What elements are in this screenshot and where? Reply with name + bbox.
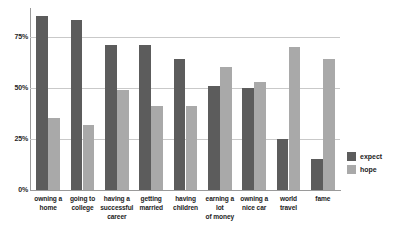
bar-expect — [277, 139, 289, 190]
bar-expect — [139, 45, 151, 190]
x-axis-label-line: having a — [100, 194, 134, 203]
x-axis-label-line: owning a — [237, 194, 271, 203]
x-axis-label-line: career — [100, 212, 134, 221]
x-axis-line — [30, 190, 341, 191]
x-axis-label-line: children — [168, 203, 202, 212]
y-axis-ticks: 0%25%50%75% — [0, 0, 28, 244]
x-axis-label: fame — [306, 194, 340, 203]
legend-label: hope — [360, 166, 377, 173]
x-axis-label-line: successful — [100, 203, 134, 212]
x-axis-label: going tocollege — [65, 194, 99, 212]
bar-group — [306, 0, 340, 190]
bar-group — [271, 0, 305, 190]
y-tick-label: 25% — [2, 135, 28, 142]
x-axis-label: having asuccessfulcareer — [100, 194, 134, 221]
bar-hope — [151, 106, 163, 190]
y-tick-label: 50% — [2, 84, 28, 91]
bar-hope — [323, 59, 335, 190]
x-axis-label-line: travel — [271, 203, 305, 212]
bar-group — [31, 0, 65, 190]
bar-groups — [31, 0, 340, 190]
bar-expect — [174, 59, 186, 190]
bar-group — [168, 0, 202, 190]
bar-hope — [254, 82, 266, 190]
x-axis-label-line: fame — [306, 194, 340, 203]
x-axis-label: owning anice car — [237, 194, 271, 212]
legend-item: expect — [347, 152, 395, 161]
x-axis-label-line: owning a — [31, 194, 65, 203]
x-axis-label-line: nice car — [237, 203, 271, 212]
legend-item: hope — [347, 165, 395, 174]
x-axis-label: gettingmarried — [134, 194, 168, 212]
bar-hope — [83, 125, 95, 190]
y-tick-label: 0% — [2, 186, 28, 193]
legend-label: expect — [360, 153, 382, 160]
bar-group — [203, 0, 237, 190]
x-axis-label-line: college — [65, 203, 99, 212]
x-axis-label: earning a lotof money — [203, 194, 237, 221]
x-axis-label-line: married — [134, 203, 168, 212]
bar-hope — [117, 90, 129, 190]
bar-group — [65, 0, 99, 190]
x-axis-label-line: going to — [65, 194, 99, 203]
y-tick-label: 75% — [2, 33, 28, 40]
bar-expect — [242, 88, 254, 190]
bar-chart: 0%25%50%75% owning ahomegoing tocollegeh… — [0, 0, 398, 244]
bar-expect — [208, 86, 220, 190]
bar-group — [134, 0, 168, 190]
bar-expect — [71, 20, 83, 190]
x-axis-label-line: earning a lot — [203, 194, 237, 212]
bar-expect — [105, 45, 117, 190]
x-axis-label-line: of money — [203, 212, 237, 221]
x-axis-label: havingchildren — [168, 194, 202, 212]
bar-hope — [186, 106, 198, 190]
bar-hope — [48, 118, 60, 190]
x-axis-label: owning ahome — [31, 194, 65, 212]
bar-hope — [289, 47, 301, 190]
x-axis-labels: owning ahomegoing tocollegehaving asucce… — [31, 194, 340, 242]
bar-hope — [220, 67, 232, 190]
legend-swatch-icon — [347, 152, 356, 161]
legend-swatch-icon — [347, 165, 356, 174]
x-axis-label-line: having — [168, 194, 202, 203]
bar-expect — [36, 16, 48, 190]
x-axis-label: worldtravel — [271, 194, 305, 212]
bar-group — [100, 0, 134, 190]
bar-group — [237, 0, 271, 190]
chart-legend: expecthope — [347, 152, 395, 178]
x-axis-label-line: world — [271, 194, 305, 203]
bar-expect — [311, 159, 323, 190]
x-axis-label-line: home — [31, 203, 65, 212]
x-axis-label-line: getting — [134, 194, 168, 203]
